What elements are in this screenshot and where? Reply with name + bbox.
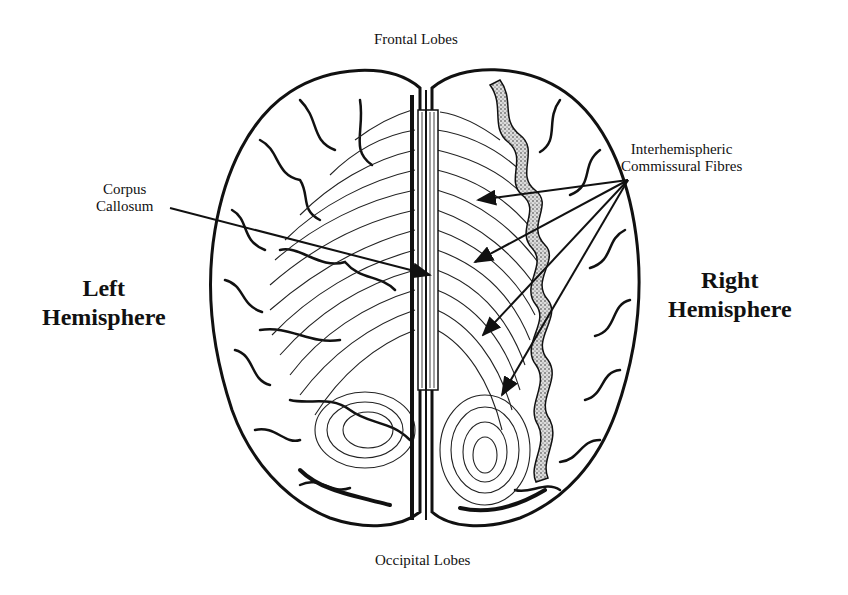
frontal-lobes-label: Frontal Lobes xyxy=(374,31,458,48)
right-hemisphere-label: Right Hemisphere xyxy=(668,266,792,324)
right-hemisphere-label-line1: Right xyxy=(668,266,792,295)
left-hemisphere-label: Left Hemisphere xyxy=(42,274,166,332)
commissural-fibres-label-line1: Interhemispheric xyxy=(621,141,742,158)
occipital-lobes-label: Occipital Lobes xyxy=(375,552,470,569)
commissural-fibres-label: Interhemispheric Commissural Fibres xyxy=(621,141,742,176)
commissural-fibres-label-line2: Commissural Fibres xyxy=(621,158,742,175)
corpus-callosum-label-line1: Corpus xyxy=(96,181,154,198)
right-hemisphere-label-line2: Hemisphere xyxy=(668,295,792,324)
corpus-callosum-label-line2: Callosum xyxy=(96,198,154,215)
left-hemisphere-label-line2: Hemisphere xyxy=(42,303,166,332)
corpus-callosum-label: Corpus Callosum xyxy=(96,181,154,216)
left-hemisphere-label-line1: Left xyxy=(42,274,166,303)
